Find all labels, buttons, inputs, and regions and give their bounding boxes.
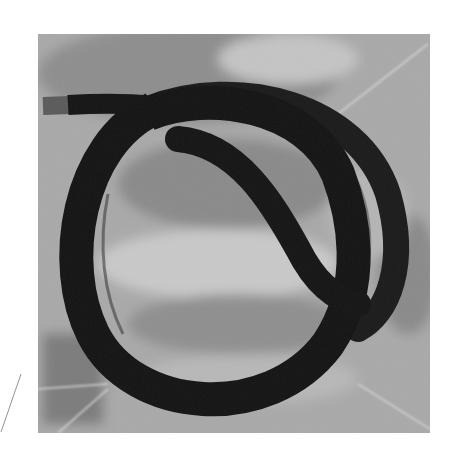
- coiled-tube-illustration: [38, 34, 430, 433]
- tube-photograph: [38, 34, 430, 433]
- stray-diagonal-line: [0, 0, 40, 466]
